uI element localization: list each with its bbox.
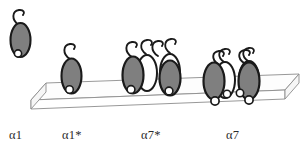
a7s-ghost-tail-1-icon [141, 40, 152, 54]
a1s-pore-circle [66, 86, 74, 94]
a7-subunit-body-1 [204, 63, 225, 100]
group-a7-star [123, 39, 181, 96]
a7-pore-circle-lower-1 [211, 97, 219, 105]
label-a1-star: α1* [62, 128, 82, 143]
diagram-root: α1 α1* α7* α7 [0, 0, 302, 156]
a7-pore-circle-lower-2 [245, 96, 253, 104]
a7s-tail-1-icon [126, 42, 137, 57]
label-a7: α7 [226, 128, 239, 143]
group-a1-star [62, 44, 82, 94]
a7s-pore-circle-2 [165, 87, 173, 95]
a1-pore-circle [14, 50, 21, 57]
a7-pore-circle-upper-1 [223, 90, 230, 97]
label-a7-star: α7* [141, 128, 161, 143]
a7s-tail-2-icon [152, 41, 163, 56]
a1s-tail-icon [64, 44, 75, 59]
label-a1: α1 [9, 128, 22, 143]
group-label-row: α1 α1* α7* α7 [0, 128, 302, 156]
a7s-ghost-tail-2-icon [165, 39, 176, 53]
group-a1 [11, 10, 31, 57]
a7s-pore-circle-1 [127, 86, 135, 94]
a7-pore-circle-upper-2 [236, 89, 243, 96]
